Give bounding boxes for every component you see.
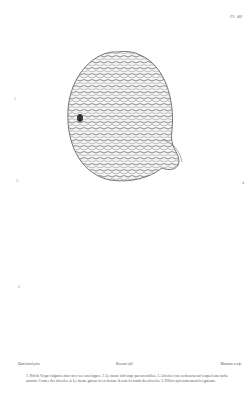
credit-engraver: Manteau sculp. — [220, 362, 242, 366]
figure-label-4: 4 — [242, 180, 244, 185]
figure-label-1: 1 — [14, 96, 16, 101]
figure-nest-exterior — [68, 51, 182, 180]
figure-label-2: 2 — [18, 284, 20, 289]
plate-caption: 1. Nid de Vespa vulgaris entier avec ses… — [26, 374, 238, 384]
engraving-credits: Blanchard pinx. Bocourt del. Manteau scu… — [18, 362, 242, 370]
credit-painter: Blanchard pinx. — [18, 362, 40, 366]
credit-draughtsman: Bocourt del. — [116, 362, 133, 366]
engraving-illustration — [0, 0, 252, 402]
figure-label-3: 3 — [16, 178, 18, 183]
